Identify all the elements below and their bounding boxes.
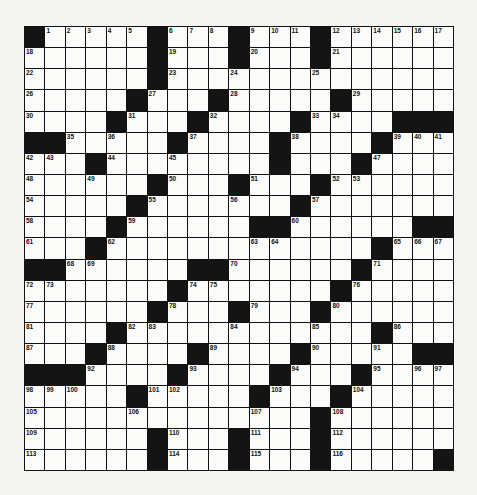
grid-cell[interactable] (331, 260, 350, 280)
grid-cell[interactable] (291, 175, 310, 195)
grid-cell[interactable]: 108 (331, 408, 350, 428)
grid-cell[interactable] (107, 260, 126, 280)
grid-cell[interactable]: 92 (86, 365, 105, 385)
grid-cell[interactable] (45, 112, 64, 132)
grid-cell[interactable] (209, 69, 228, 89)
grid-cell[interactable] (270, 260, 289, 280)
grid-cell[interactable] (127, 69, 146, 89)
grid-cell[interactable] (270, 344, 289, 364)
grid-cell[interactable] (331, 196, 350, 216)
grid-cell[interactable]: 14 (372, 27, 391, 47)
grid-cell[interactable] (86, 302, 105, 322)
grid-cell[interactable] (148, 154, 167, 174)
grid-cell[interactable]: 15 (393, 27, 412, 47)
grid-cell[interactable] (291, 323, 310, 343)
grid-cell[interactable] (127, 48, 146, 68)
grid-cell[interactable]: 91 (372, 344, 391, 364)
grid-cell[interactable] (270, 281, 289, 301)
grid-cell[interactable] (45, 48, 64, 68)
grid-cell[interactable] (107, 365, 126, 385)
grid-cell[interactable] (372, 175, 391, 195)
grid-cell[interactable]: 26 (25, 90, 44, 110)
grid-cell[interactable] (209, 323, 228, 343)
grid-cell[interactable] (352, 344, 371, 364)
grid-cell[interactable] (127, 365, 146, 385)
grid-cell[interactable] (372, 196, 391, 216)
grid-cell[interactable] (413, 408, 432, 428)
grid-cell[interactable] (148, 217, 167, 237)
grid-cell[interactable]: 2 (66, 27, 85, 47)
grid-cell[interactable] (229, 344, 248, 364)
grid-cell[interactable] (434, 323, 453, 343)
grid-cell[interactable] (66, 217, 85, 237)
grid-cell[interactable]: 32 (209, 112, 228, 132)
grid-cell[interactable] (311, 90, 330, 110)
grid-cell[interactable] (86, 450, 105, 470)
grid-cell[interactable]: 63 (250, 238, 269, 258)
grid-cell[interactable] (393, 154, 412, 174)
grid-cell[interactable] (229, 365, 248, 385)
grid-cell[interactable] (209, 408, 228, 428)
grid-cell[interactable] (107, 281, 126, 301)
grid-cell[interactable] (413, 48, 432, 68)
grid-cell[interactable]: 37 (188, 133, 207, 153)
grid-cell[interactable] (127, 175, 146, 195)
grid-cell[interactable] (188, 450, 207, 470)
grid-cell[interactable] (331, 154, 350, 174)
grid-cell[interactable]: 3 (86, 27, 105, 47)
grid-cell[interactable] (270, 112, 289, 132)
grid-cell[interactable] (393, 365, 412, 385)
grid-cell[interactable] (352, 217, 371, 237)
grid-cell[interactable] (352, 302, 371, 322)
grid-cell[interactable]: 20 (250, 48, 269, 68)
grid-cell[interactable] (188, 238, 207, 258)
grid-cell[interactable]: 43 (45, 154, 64, 174)
grid-cell[interactable] (270, 323, 289, 343)
grid-cell[interactable]: 55 (148, 196, 167, 216)
grid-cell[interactable] (188, 154, 207, 174)
grid-cell[interactable] (148, 408, 167, 428)
grid-cell[interactable] (270, 175, 289, 195)
grid-cell[interactable] (352, 408, 371, 428)
grid-cell[interactable] (188, 386, 207, 406)
grid-cell[interactable] (270, 408, 289, 428)
grid-cell[interactable] (127, 154, 146, 174)
grid-cell[interactable]: 19 (168, 48, 187, 68)
grid-cell[interactable] (434, 154, 453, 174)
grid-cell[interactable]: 16 (413, 27, 432, 47)
grid-cell[interactable] (352, 238, 371, 258)
grid-cell[interactable] (250, 260, 269, 280)
grid-cell[interactable] (229, 386, 248, 406)
grid-cell[interactable] (393, 429, 412, 449)
grid-cell[interactable] (250, 365, 269, 385)
grid-cell[interactable] (86, 90, 105, 110)
grid-cell[interactable] (393, 281, 412, 301)
grid-cell[interactable]: 89 (209, 344, 228, 364)
grid-cell[interactable] (250, 323, 269, 343)
grid-cell[interactable] (45, 450, 64, 470)
grid-cell[interactable] (168, 217, 187, 237)
grid-cell[interactable] (107, 450, 126, 470)
grid-cell[interactable] (250, 69, 269, 89)
grid-cell[interactable]: 97 (434, 365, 453, 385)
grid-cell[interactable] (127, 429, 146, 449)
grid-cell[interactable] (352, 429, 371, 449)
grid-cell[interactable]: 49 (86, 175, 105, 195)
grid-cell[interactable] (434, 260, 453, 280)
grid-cell[interactable] (66, 450, 85, 470)
grid-cell[interactable]: 28 (229, 90, 248, 110)
grid-cell[interactable]: 51 (250, 175, 269, 195)
grid-cell[interactable] (209, 154, 228, 174)
grid-cell[interactable] (148, 112, 167, 132)
grid-cell[interactable]: 106 (127, 408, 146, 428)
grid-cell[interactable] (168, 260, 187, 280)
grid-cell[interactable] (291, 69, 310, 89)
grid-cell[interactable]: 65 (393, 238, 412, 258)
grid-cell[interactable]: 104 (352, 386, 371, 406)
grid-cell[interactable] (127, 260, 146, 280)
grid-cell[interactable] (352, 112, 371, 132)
grid-cell[interactable]: 60 (291, 217, 310, 237)
grid-cell[interactable]: 102 (168, 386, 187, 406)
grid-cell[interactable] (372, 112, 391, 132)
grid-cell[interactable] (291, 450, 310, 470)
